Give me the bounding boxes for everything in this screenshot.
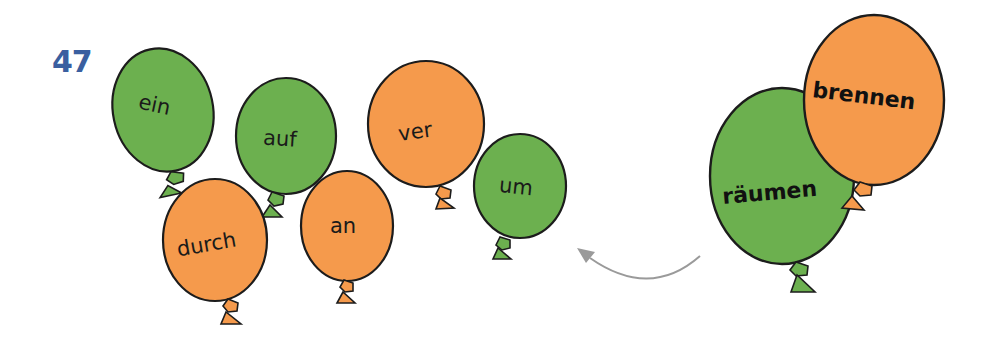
balloon-label-an: an bbox=[330, 214, 356, 238]
balloon-label-auf: auf bbox=[262, 125, 298, 151]
balloon-label-um: um bbox=[498, 173, 534, 200]
balloon-label-ver: ver bbox=[397, 117, 434, 146]
curved-arrow-icon bbox=[577, 248, 700, 279]
